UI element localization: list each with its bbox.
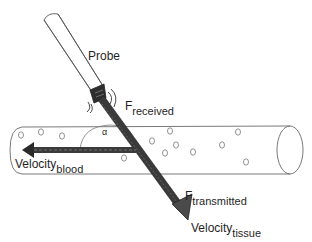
f-received-label: Freceived [125, 100, 174, 117]
doppler-diagram [0, 0, 312, 242]
alpha-angle-label: α [102, 128, 107, 137]
velocity-blood-label: Velocityblood [15, 158, 83, 175]
f-transmitted-label: Ftransmitted [185, 190, 247, 207]
velocity-blood-arrow [22, 142, 136, 158]
velocity-tissue-label: Velocitytissue [191, 222, 261, 239]
probe-label: Probe [88, 50, 120, 62]
